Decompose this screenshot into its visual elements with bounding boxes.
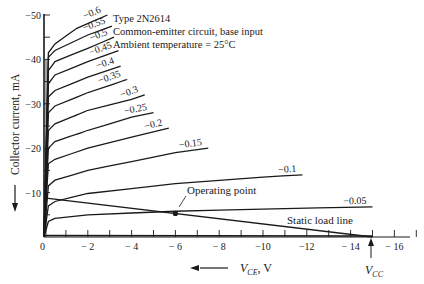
origin-label: 0 — [40, 241, 45, 252]
x-tick-label: − 8 — [213, 241, 226, 252]
curve-ib — [44, 128, 169, 237]
x-tick-label: − 6 — [169, 241, 182, 252]
chart-info: Type 2N2614 Common-emitter circuit, base… — [113, 12, 263, 51]
operating-point-leader — [179, 196, 186, 207]
x-axis-arrow — [190, 265, 228, 271]
ambient-temperature: Ambient temperature = 25°C — [113, 38, 263, 51]
x-tick-label: − 4 — [125, 241, 138, 252]
curve-label: −0.05 — [343, 195, 366, 206]
vcc-marker — [368, 238, 374, 258]
curve-ib — [44, 66, 121, 237]
curve-ib — [44, 148, 208, 237]
x-axis-label: VCE, V — [240, 261, 272, 277]
x-tick-label: −12 — [299, 241, 315, 252]
curve-label: −0.2 — [143, 116, 163, 131]
x-tick-label: −10 — [255, 241, 271, 252]
curve-label: −0.1 — [278, 163, 297, 175]
x-tick-label: − 16 — [385, 241, 403, 252]
circuit-type: Common-emitter circuit, base input — [113, 25, 263, 38]
x-tick-label: − 14 — [342, 241, 360, 252]
transistor-type: Type 2N2614 — [113, 12, 263, 25]
y-axis-label: Collector current, mA — [9, 73, 22, 175]
x-tick-label: − 2 — [81, 241, 94, 252]
curve-ib — [44, 95, 145, 237]
operating-point-label: Operating point — [187, 184, 256, 196]
operating-point-dot — [173, 211, 178, 216]
y-tick-label: −20 — [25, 143, 41, 154]
load-line-label: Static load line — [287, 214, 353, 226]
y-tick-label: −40 — [25, 54, 41, 65]
curve-ib — [44, 175, 302, 237]
y-axis-arrow — [12, 185, 18, 212]
y-tick-label: −30 — [25, 99, 41, 110]
y-tick-label: −50 — [25, 10, 41, 21]
curve-label: −0.15 — [178, 136, 202, 150]
vcc-label: VCC — [365, 263, 384, 279]
y-tick-label: −10 — [25, 188, 41, 199]
